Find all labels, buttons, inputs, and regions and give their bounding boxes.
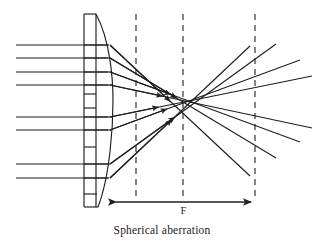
figure-container: F Spherical aberration bbox=[0, 0, 324, 247]
lens-internal-dividers bbox=[84, 45, 112, 194]
ray-arrow bbox=[110, 107, 158, 117]
refracted-ray-direction-arrows bbox=[110, 45, 176, 178]
ray-arrow bbox=[110, 120, 172, 178]
ray-arrow bbox=[110, 117, 175, 164]
thick-lens bbox=[84, 14, 113, 207]
focal-length-text: F bbox=[181, 205, 187, 216]
figure-caption: Spherical aberration bbox=[0, 224, 324, 236]
focal-reference-planes bbox=[136, 14, 255, 200]
incoming-parallel-rays bbox=[16, 45, 108, 178]
ray-arrow bbox=[110, 45, 170, 101]
focal-length-label: F bbox=[0, 205, 324, 216]
ray-arrow bbox=[110, 109, 167, 130]
